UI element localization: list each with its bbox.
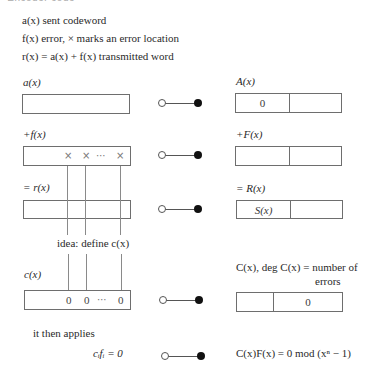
spectrum-cell-F-left	[236, 147, 289, 165]
error-box-f: × × ⋯ ×	[23, 146, 131, 166]
connector-line	[165, 356, 201, 357]
open-circle-icon	[158, 205, 166, 213]
open-circle-icon	[158, 99, 166, 107]
legend-line-transmitted: r(x) = a(x) + f(x) transmitted word	[22, 50, 174, 63]
label-C-x-degree: C(x), deg C(x) = number of	[236, 261, 358, 274]
error-location-line	[120, 166, 121, 235]
transform-connector-4	[159, 295, 203, 305]
spectrum-box-F	[235, 146, 342, 166]
spectrum-cell-R-right	[291, 201, 342, 218]
spectrum-cell-F-right	[290, 147, 341, 165]
zero-mark: 0	[66, 294, 72, 306]
spectrum-cell-A-left: 0	[236, 94, 289, 112]
open-circle-icon	[161, 352, 169, 360]
zero-mark: 0	[118, 294, 124, 306]
legend-line-error: f(x) error, × marks an error location	[22, 32, 179, 45]
filled-circle-icon	[194, 151, 202, 159]
transform-connector-3	[158, 204, 202, 214]
connector-line	[163, 300, 199, 301]
equation-time-domain: cᵢfᵢ = 0	[93, 347, 123, 360]
spectrum-box-R: S(x)	[236, 200, 343, 219]
transform-connector-1	[158, 98, 202, 108]
error-location-line	[121, 254, 122, 290]
filled-circle-icon	[195, 296, 203, 304]
label-f-x: +f(x)	[23, 128, 46, 141]
filled-circle-icon	[194, 99, 202, 107]
applies-text: it then applies	[33, 327, 95, 340]
connector-line	[162, 103, 198, 104]
ellipsis-mark: ⋯	[97, 294, 107, 305]
spectrum-cell-C-right: 0	[274, 293, 342, 311]
open-circle-icon	[159, 296, 167, 304]
section-heading-clipped: ▪ Encoder code	[0, 0, 75, 3]
label-r-x: = r(x)	[23, 181, 50, 194]
spectrum-cell-A-right	[290, 94, 341, 112]
legend-line-codeword: a(x) sent codeword	[22, 14, 106, 27]
label-a-x: a(x)	[23, 76, 41, 89]
error-location-line	[68, 254, 69, 290]
connector-line	[162, 209, 198, 210]
filled-circle-icon	[197, 352, 205, 360]
zero-mark: 0	[84, 294, 90, 306]
equation-frequency-domain: C(x)F(x) = 0 mod (xⁿ − 1)	[236, 347, 351, 360]
spectrum-box-C: 0	[236, 292, 343, 312]
label-c-x: c(x)	[24, 268, 41, 281]
label-C-x-errors: errors	[315, 275, 341, 288]
locator-box-c: 0 0 ⋯ 0	[24, 290, 131, 310]
idea-text: idea: define c(x)	[57, 237, 129, 250]
error-mark: ×	[116, 150, 124, 161]
label-R-x: = R(x)	[236, 182, 265, 195]
label-F-x: +F(x)	[236, 128, 262, 141]
ellipsis-mark: ⋯	[96, 150, 106, 161]
error-location-line	[85, 166, 86, 235]
error-location-line	[86, 254, 87, 290]
error-mark: ×	[64, 150, 72, 161]
transform-connector-5	[161, 351, 205, 361]
open-circle-icon	[158, 151, 166, 159]
transform-connector-2	[158, 150, 202, 160]
filled-circle-icon	[194, 205, 202, 213]
label-A-x: A(x)	[236, 75, 255, 88]
spectrum-cell-C-left	[237, 293, 273, 311]
spectrum-box-A: 0	[235, 93, 342, 113]
connector-line	[162, 155, 198, 156]
error-location-line	[67, 166, 68, 235]
received-box-r	[23, 200, 131, 219]
codeword-box-a	[22, 94, 130, 114]
syndrome-cell-S: S(x)	[237, 201, 290, 218]
error-mark: ×	[82, 150, 90, 161]
